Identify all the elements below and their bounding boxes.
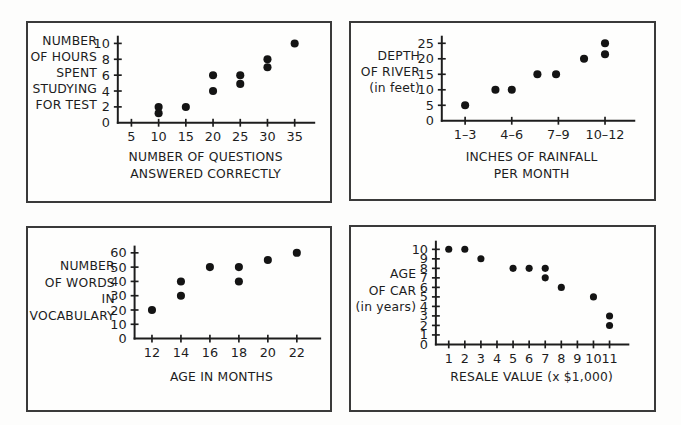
svg-text:4: 4 [102, 84, 110, 99]
svg-text:22: 22 [289, 345, 305, 360]
svg-text:15: 15 [178, 129, 194, 144]
svg-text:OF HOURS: OF HOURS [30, 50, 97, 64]
svg-text:RESALE VALUE (x $1,000): RESALE VALUE (x $1,000) [450, 370, 613, 384]
svg-text:1: 1 [445, 351, 453, 366]
svg-text:14: 14 [173, 345, 189, 360]
svg-text:7: 7 [541, 351, 549, 366]
svg-text:20: 20 [205, 129, 221, 144]
svg-text:8: 8 [557, 351, 565, 366]
svg-text:10: 10 [585, 351, 601, 366]
svg-text:12: 12 [144, 345, 160, 360]
svg-text:18: 18 [231, 345, 247, 360]
svg-text:AGE IN MONTHS: AGE IN MONTHS [170, 370, 273, 384]
svg-text:ANSWERED CORRECTLY: ANSWERED CORRECTLY [130, 168, 281, 182]
svg-text:5: 5 [127, 129, 135, 144]
svg-text:4–6: 4–6 [500, 127, 523, 142]
svg-text:0: 0 [102, 115, 110, 130]
scatter-chart-vocabulary: 0102030405060121416182022NUMBEROF WORDSI… [28, 228, 330, 410]
svg-text:3: 3 [477, 351, 485, 366]
plot-area-4: 0123456789101234567891011AGEOF CAR(in ye… [351, 227, 654, 410]
svg-text:10: 10 [412, 242, 428, 257]
svg-text:9: 9 [573, 351, 581, 366]
svg-text:0: 0 [426, 113, 434, 128]
scatter-chart-hours-studying: 02468105101520253035NUMBEROF HOURSSPENTS… [28, 23, 330, 201]
svg-text:SPENT: SPENT [56, 66, 97, 80]
plot-area-1: 02468105101520253035NUMBEROF HOURSSPENTS… [28, 23, 330, 201]
svg-text:20: 20 [260, 345, 276, 360]
plot-area-2: 05101520251–34–67–910–12DEPTHOF RIVER(in… [351, 23, 654, 199]
svg-text:NUMBER: NUMBER [42, 34, 97, 48]
svg-text:DEPTH: DEPTH [378, 49, 420, 63]
svg-text:35: 35 [287, 129, 303, 144]
svg-text:NUMBER OF QUESTIONS: NUMBER OF QUESTIONS [129, 150, 283, 164]
svg-text:IN: IN [102, 292, 115, 306]
svg-text:8: 8 [102, 52, 110, 67]
svg-text:6: 6 [102, 68, 110, 83]
svg-text:VOCABULARY: VOCABULARY [30, 309, 116, 323]
chart-panel-vocabulary: 0102030405060121416182022NUMBEROF WORDSI… [26, 226, 332, 412]
svg-text:0: 0 [119, 331, 127, 346]
plot-area-3: 0102030405060121416182022NUMBEROF WORDSI… [28, 228, 330, 410]
chart-panel-car-age: 0123456789101234567891011AGEOF CAR(in ye… [349, 225, 656, 412]
worksheet-page: 02468105101520253035NUMBEROF HOURSSPENTS… [0, 0, 681, 425]
svg-text:(in feet): (in feet) [369, 81, 420, 95]
svg-text:NUMBER: NUMBER [60, 259, 115, 273]
svg-text:FOR TEST: FOR TEST [36, 98, 98, 112]
svg-text:10: 10 [150, 129, 166, 144]
svg-text:(in years): (in years) [356, 300, 417, 314]
svg-text:2: 2 [102, 100, 110, 115]
svg-text:STUDYING: STUDYING [32, 82, 97, 96]
svg-text:OF CAR: OF CAR [369, 284, 417, 298]
scatter-chart-car-age: 0123456789101234567891011AGEOF CAR(in ye… [351, 227, 654, 410]
svg-text:5: 5 [509, 351, 517, 366]
svg-text:30: 30 [259, 129, 275, 144]
svg-text:5: 5 [426, 98, 434, 113]
svg-text:AGE: AGE [390, 267, 416, 281]
svg-text:10–12: 10–12 [585, 127, 624, 142]
chart-panel-hours-studying: 02468105101520253035NUMBEROF HOURSSPENTS… [26, 21, 332, 203]
svg-text:PER MONTH: PER MONTH [494, 168, 570, 182]
svg-text:OF WORDS: OF WORDS [45, 276, 115, 290]
chart-panel-river-depth: 05101520251–34–67–910–12DEPTHOF RIVER(in… [349, 21, 656, 201]
scatter-chart-river-depth: 05101520251–34–67–910–12DEPTHOF RIVER(in… [351, 23, 654, 199]
svg-text:4: 4 [493, 351, 501, 366]
svg-text:OF RIVER: OF RIVER [361, 65, 421, 79]
svg-text:11: 11 [601, 351, 617, 366]
svg-text:6: 6 [525, 351, 533, 366]
svg-text:2: 2 [461, 351, 469, 366]
svg-text:INCHES OF RAINFALL: INCHES OF RAINFALL [466, 150, 598, 164]
svg-text:25: 25 [232, 129, 248, 144]
svg-text:16: 16 [202, 345, 218, 360]
svg-text:1–3: 1–3 [454, 127, 477, 142]
svg-text:7–9: 7–9 [547, 127, 570, 142]
